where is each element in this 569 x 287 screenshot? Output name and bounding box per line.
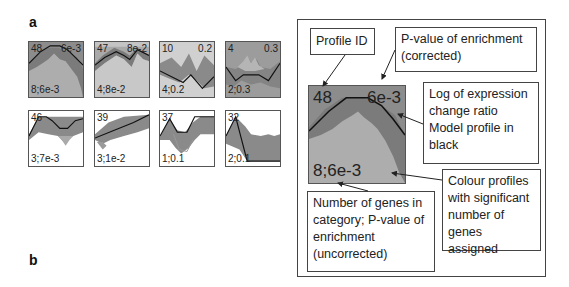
profile-id: 37 xyxy=(162,113,173,123)
example-profile-thumbnail: 48 6e-3 8;6e-3 xyxy=(308,85,406,184)
example-gene-count-p-value: 8;6e-3 xyxy=(313,162,361,179)
callout-gene-count-p-uncorrected: Number of genes in category; P-value of … xyxy=(307,191,435,272)
gene-count-p-value: 1;0.1 xyxy=(162,154,184,164)
gene-count-p-value: 4;8e-2 xyxy=(97,85,125,95)
example-profile-id: 48 xyxy=(313,89,332,106)
profile-thumbnail-47: 47 8e-2 4;8e-2 xyxy=(94,41,150,98)
p-value-corrected: 8e-2 xyxy=(127,44,147,54)
gene-count-p-value: 4;0.2 xyxy=(162,85,184,95)
p-value-corrected: 0.2 xyxy=(198,44,212,54)
panel-label-b: b xyxy=(29,252,38,268)
profile-id: 46 xyxy=(31,113,42,123)
profile-id: 4 xyxy=(228,44,234,54)
callout-log-ratio: Log of expression change ratio Model pro… xyxy=(423,82,539,164)
profile-id: 10 xyxy=(162,44,173,54)
profile-id: 32 xyxy=(228,113,239,123)
example-p-value-corrected: 6e-3 xyxy=(367,89,401,106)
gene-count-p-value: 2;0.1 xyxy=(228,154,250,164)
callout-profile-id: Profile ID xyxy=(310,28,375,55)
gene-count-p-value: 2;0.3 xyxy=(228,85,250,95)
p-value-corrected: 6e-3 xyxy=(61,44,81,54)
profile-thumbnail-46: 46 3;7e-3 xyxy=(28,110,84,167)
callout-colour-profiles: Colour profiles with significant number … xyxy=(442,169,541,251)
profile-thumbnail-48: 48 6e-3 8;6e-3 xyxy=(28,41,84,98)
profile-id: 48 xyxy=(31,44,42,54)
profile-id: 39 xyxy=(97,113,108,123)
profile-thumbnail-4: 4 0.3 2;0.3 xyxy=(225,41,281,98)
panel-label-a: a xyxy=(29,14,37,30)
gene-count-p-value: 8;6e-3 xyxy=(31,85,59,95)
profile-thumbnail-39: 39 3;1e-2 xyxy=(94,110,150,167)
gene-count-p-value: 3;1e-2 xyxy=(97,154,125,164)
profile-thumbnail-10: 10 0.2 4;0.2 xyxy=(159,41,215,98)
profile-id: 47 xyxy=(97,44,108,54)
p-value-corrected: 0.3 xyxy=(264,44,278,54)
gene-count-p-value: 3;7e-3 xyxy=(31,154,59,164)
profile-thumbnail-32: 32 2;0.1 xyxy=(225,110,281,167)
profile-thumbnail-37: 37 1;0.1 xyxy=(159,110,215,167)
callout-p-value-corrected: P-value of enrichment (corrected) xyxy=(395,27,537,72)
